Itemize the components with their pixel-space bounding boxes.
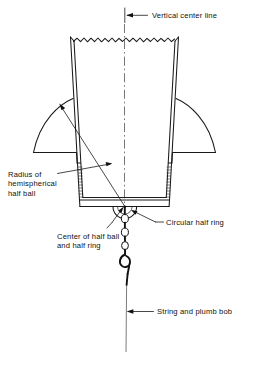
- leader-string-plumb-bob: [127, 309, 154, 314]
- hook: [120, 255, 130, 286]
- leader-circular-half-ring: [131, 210, 164, 222]
- left-conical-flange: [34, 99, 81, 164]
- leader-vertical-center-line: [125, 8, 148, 23]
- right-conical-flange: [168, 99, 215, 164]
- bead-chain: [121, 208, 128, 255]
- label-vertical-center-line: Vertical center line: [152, 11, 217, 20]
- leader-radius-half-ball: [58, 103, 125, 206]
- plumb-bob-string: [126, 285, 127, 352]
- figure-canvas: Vertical center line Radius of hemispher…: [0, 0, 269, 367]
- technical-drawing: Vertical center line Radius of hemispher…: [0, 0, 269, 367]
- label-center-line-1: Center of half ball: [57, 232, 120, 241]
- label-radius-line-3: half ball: [8, 189, 36, 198]
- break-line-top: [74, 38, 175, 42]
- label-string-and-plumb-bob: String and plumb bob: [157, 307, 232, 316]
- label-radius-line-1: Radius of: [8, 170, 42, 179]
- label-circular-half-ring: Circular half ring: [166, 218, 224, 227]
- label-radius-line-2: hemispherical: [8, 179, 57, 188]
- label-center-line-2: and half ring: [57, 241, 101, 250]
